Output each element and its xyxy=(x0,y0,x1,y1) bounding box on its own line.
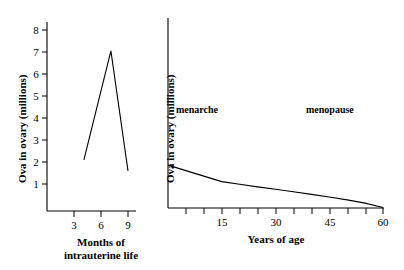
left-x-ticklabel-3: 3 xyxy=(64,219,84,231)
left-y-ticklabel-6: 6 xyxy=(26,68,46,80)
left-y-ticklabel-2: 2 xyxy=(26,156,46,168)
annotation-menarche: menarche xyxy=(176,104,218,115)
chart-panel-intrauterine: Ova in ovary (millions) 8 7 6 5 xyxy=(0,0,160,270)
right-x-ticklabel-45: 45 xyxy=(320,216,340,228)
right-chart-plot xyxy=(150,0,404,270)
right-x-ticklabel-15: 15 xyxy=(212,216,232,228)
left-y-ticklabel-1: 1 xyxy=(26,178,46,190)
ova-in-ovary-figure: Ova in ovary (millions) 8 7 6 5 xyxy=(0,0,404,270)
left-y-ticklabel-4: 4 xyxy=(26,112,46,124)
right-x-axis-title: Years of age xyxy=(216,233,336,246)
left-data-line xyxy=(84,51,128,171)
left-x-ticklabel-6: 6 xyxy=(91,219,111,231)
left-x-ticklabel-9: 9 xyxy=(118,219,138,231)
left-y-ticklabel-5: 5 xyxy=(26,90,46,102)
left-y-ticklabel-3: 3 xyxy=(26,134,46,146)
left-y-ticklabel-8: 8 xyxy=(26,24,46,36)
annotation-menopause: menopause xyxy=(306,104,354,115)
right-x-ticklabel-30: 30 xyxy=(266,216,286,228)
left-y-ticklabel-7: 7 xyxy=(26,46,46,58)
right-x-ticklabel-60: 60 xyxy=(373,216,393,228)
right-data-line xyxy=(168,165,383,207)
chart-panel-years-of-age: Ova in ovary (millions) 15 30 45 60 Yea xyxy=(150,0,404,270)
